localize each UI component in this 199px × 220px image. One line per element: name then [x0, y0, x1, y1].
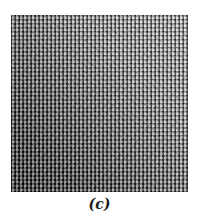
figure: (c): [0, 0, 199, 220]
halftone-texture-image: [11, 15, 188, 192]
texture-noise-overlay: [11, 15, 188, 192]
figure-caption: (c): [0, 196, 199, 212]
